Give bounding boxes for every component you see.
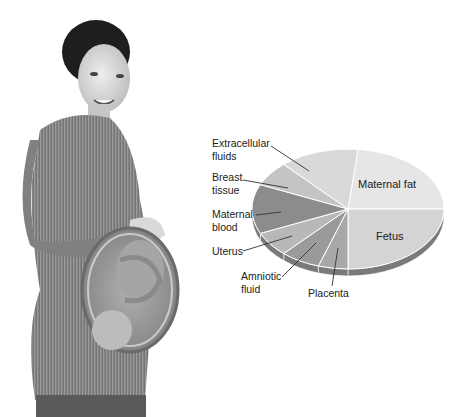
pie-slices bbox=[252, 149, 444, 269]
label-uterus: Uterus bbox=[212, 245, 243, 257]
label-extracellular-fluids: Extracellular fluids bbox=[212, 137, 273, 162]
label-maternal-fat: Maternal fat bbox=[358, 178, 416, 190]
label-maternal-blood: Maternal blood bbox=[212, 208, 256, 233]
label-amniotic-fluid: Amniotic fluid bbox=[241, 270, 284, 295]
label-breast-tissue: Breast tissue bbox=[212, 171, 245, 196]
label-placenta: Placenta bbox=[308, 287, 349, 299]
pie-chart: Extracellular fluids Breast tissue Mater… bbox=[0, 0, 458, 417]
figure: Extracellular fluids Breast tissue Mater… bbox=[0, 0, 458, 417]
label-fetus: Fetus bbox=[376, 230, 404, 242]
